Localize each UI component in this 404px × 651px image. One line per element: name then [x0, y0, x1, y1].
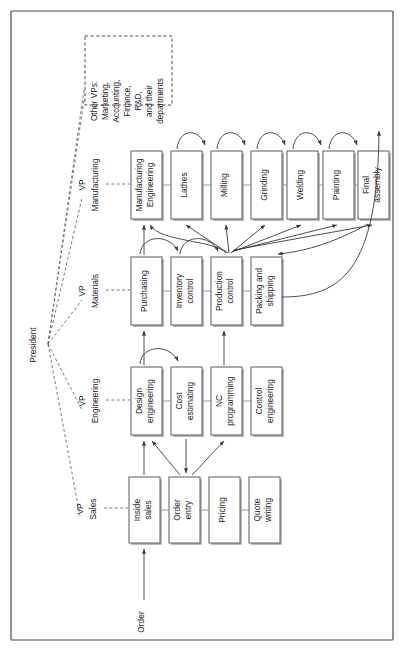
svg-text:Final: Final — [361, 176, 371, 194]
manufacturing-sequence-arcs — [177, 133, 357, 149]
vp-materials-label: VP Materials — [77, 274, 100, 308]
svg-text:control: control — [225, 278, 235, 303]
svg-text:Quote: Quote — [252, 498, 262, 521]
node-order-entry[interactable]: Order entry — [169, 477, 202, 545]
svg-text:Finance,: Finance, — [123, 85, 132, 116]
svg-text:Other VPs:: Other VPs: — [90, 81, 99, 121]
svg-text:Purchasing: Purchasing — [139, 270, 149, 312]
svg-text:programming: programming — [225, 376, 235, 426]
node-inside-sales[interactable]: Inside sales — [129, 477, 162, 545]
svg-text:Order: Order — [172, 499, 182, 521]
svg-text:control: control — [185, 278, 195, 303]
svg-text:Engineering: Engineering — [90, 378, 100, 423]
org-hierarchy-lines — [48, 90, 84, 516]
svg-text:Design: Design — [134, 388, 144, 414]
svg-text:sales: sales — [143, 500, 153, 520]
vp-engineering-label: VP Engineering — [77, 378, 100, 423]
svg-text:departments: departments — [156, 78, 165, 124]
svg-text:NC: NC — [214, 395, 224, 407]
node-lathes[interactable]: Lathes — [171, 151, 204, 221]
svg-text:estimating: estimating — [185, 382, 195, 421]
organization-flow-diagram: Other VPs: Marketing, Accounting, Financ… — [0, 0, 404, 651]
svg-text:Painting: Painting — [331, 170, 341, 201]
order-label: Order — [136, 611, 146, 633]
svg-text:Sales: Sales — [88, 499, 98, 520]
vp-sales-label: VP Sales — [75, 499, 98, 520]
svg-text:Milling: Milling — [219, 173, 229, 197]
svg-text:Inside: Inside — [132, 498, 142, 521]
svg-text:Control: Control — [254, 387, 264, 414]
svg-text:VP: VP — [77, 285, 87, 297]
svg-text:Welding: Welding — [295, 170, 305, 200]
svg-text:Inventory: Inventory — [174, 273, 184, 308]
node-milling[interactable]: Milling — [211, 151, 244, 221]
vp-manufacturing-label: VP Manufacturing — [77, 158, 100, 211]
svg-text:VP: VP — [75, 503, 85, 515]
other-vps-label: Other VPs: Marketing, Accounting, Financ… — [90, 78, 165, 124]
node-cost-estimating[interactable]: Cost estimating — [171, 367, 204, 437]
vp-connector-lines — [104, 184, 130, 508]
node-inventory-control[interactable]: Inventory control — [171, 257, 204, 327]
svg-text:Manufacturing: Manufacturing — [90, 158, 100, 211]
svg-text:engineering: engineering — [265, 379, 275, 423]
svg-text:writing: writing — [263, 498, 273, 524]
svg-text:Production: Production — [214, 271, 224, 311]
svg-text:R&D,: R&D, — [134, 91, 143, 111]
node-welding[interactable]: Welding — [287, 151, 320, 221]
svg-text:Marketing,: Marketing, — [101, 82, 110, 120]
node-grinding[interactable]: Grinding — [251, 151, 284, 221]
svg-text:Lathes: Lathes — [179, 172, 189, 197]
svg-text:shipping: shipping — [265, 275, 275, 307]
node-production-control[interactable]: Production control — [211, 257, 244, 327]
svg-text:engineering: engineering — [145, 379, 155, 423]
node-control-engineering[interactable]: Control engineering — [251, 367, 284, 437]
diagram-page: Other VPs: Marketing, Accounting, Financ… — [0, 0, 404, 651]
engineering-sequence-arcs — [140, 349, 178, 364]
svg-text:entry: entry — [183, 500, 193, 519]
node-final-assembly[interactable]: Final assembly — [358, 151, 391, 221]
order-entry-flow: Order — [136, 549, 146, 633]
svg-text:and their: and their — [145, 85, 154, 117]
svg-text:Accounting,: Accounting, — [112, 80, 121, 123]
node-pricing[interactable]: Pricing — [209, 477, 242, 545]
svg-text:Pricing: Pricing — [217, 497, 227, 523]
svg-text:VP: VP — [77, 179, 87, 191]
svg-text:Grinding: Grinding — [259, 169, 269, 201]
node-purchasing[interactable]: Purchasing — [131, 257, 164, 327]
node-manufacturing-engineering[interactable]: Manufacturing Engineering — [131, 151, 164, 221]
materials-sequence-arcs — [140, 239, 218, 254]
svg-text:Engineering: Engineering — [145, 162, 155, 207]
node-design-engineering[interactable]: Design engineering — [131, 367, 164, 437]
svg-text:Cost: Cost — [174, 392, 184, 410]
svg-text:Materials: Materials — [90, 274, 100, 308]
svg-text:Manufacturing: Manufacturing — [134, 158, 144, 211]
node-painting[interactable]: Painting — [323, 151, 356, 221]
node-quote-writing[interactable]: Quote writing — [249, 477, 282, 545]
president-label: President — [28, 327, 38, 363]
svg-text:Packing and: Packing and — [254, 268, 264, 314]
svg-text:VP: VP — [77, 395, 87, 407]
node-nc-programming[interactable]: NC programming — [211, 367, 244, 437]
node-packing-and-shipping[interactable]: Packing and shipping — [251, 257, 284, 327]
